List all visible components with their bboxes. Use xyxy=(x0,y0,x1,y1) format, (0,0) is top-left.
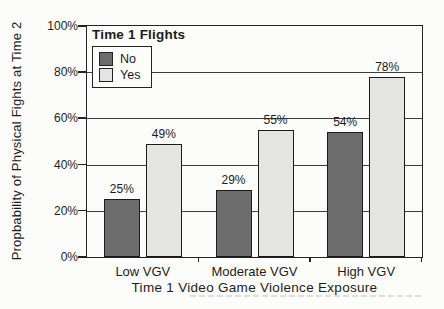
bar-no-moderate-vgv xyxy=(216,190,252,257)
bar-yes-high-vgv xyxy=(369,77,405,257)
bar-yes-moderate-vgv xyxy=(258,130,294,257)
value-label-no-low-vgv: 25% xyxy=(100,182,144,196)
y-tick-label-20: 20% xyxy=(34,204,78,219)
bar-yes-low-vgv xyxy=(146,144,182,257)
legend-label-no: No xyxy=(120,52,136,66)
x-tick-mark-1 xyxy=(198,257,200,262)
category-label-high-vgv: High VGV xyxy=(296,264,436,279)
y-tick-mark-0 xyxy=(78,256,86,258)
y-tick-label-100: 100% xyxy=(34,19,78,34)
value-label-no-high-vgv: 54% xyxy=(323,115,367,129)
y-tick-label-60: 60% xyxy=(34,111,78,126)
bar-no-low-vgv xyxy=(104,199,140,257)
y-tick-mark-60 xyxy=(78,117,86,119)
legend: Time 1 Flights No Yes xyxy=(92,27,185,88)
legend-item-no: No xyxy=(99,51,140,67)
value-label-yes-low-vgv: 49% xyxy=(142,127,186,141)
x-tick-mark-2 xyxy=(309,257,311,262)
value-label-yes-moderate-vgv: 55% xyxy=(254,113,298,127)
bar-no-high-vgv xyxy=(327,132,363,257)
scan-artifact-line xyxy=(190,295,422,297)
value-label-no-moderate-vgv: 29% xyxy=(212,173,256,187)
y-tick-mark-80 xyxy=(78,71,86,73)
x-axis-title: Time 1 Video Game Violence Exposure xyxy=(86,280,423,295)
y-tick-label-80: 80% xyxy=(34,65,78,80)
y-tick-mark-20 xyxy=(78,210,86,212)
legend-item-yes: Yes xyxy=(99,67,140,83)
value-label-yes-high-vgv: 78% xyxy=(365,60,409,74)
legend-swatch-yes xyxy=(99,68,113,82)
x-tick-mark-right xyxy=(421,257,423,262)
y-tick-label-0: 0% xyxy=(34,250,78,265)
legend-box: No Yes xyxy=(92,46,152,88)
legend-label-yes: Yes xyxy=(120,68,140,82)
y-tick-label-40: 40% xyxy=(34,158,78,173)
legend-swatch-no xyxy=(99,52,113,66)
legend-title: Time 1 Flights xyxy=(92,27,185,42)
bar-chart-figure: Propbability of Physical Fights at Time … xyxy=(0,0,444,309)
y-tick-mark-40 xyxy=(78,164,86,166)
y-axis-title: Propbability of Physical Fights at Time … xyxy=(9,22,24,261)
y-tick-mark-100 xyxy=(78,25,86,27)
